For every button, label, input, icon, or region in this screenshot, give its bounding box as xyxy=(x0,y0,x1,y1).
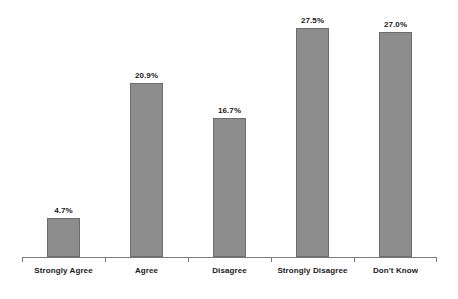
x-axis-tick xyxy=(271,257,272,262)
bar-value-label: 27.0% xyxy=(384,20,407,29)
x-axis-label-strongly-disagree: Strongly Disagree xyxy=(277,266,347,275)
bar-chart: 4.7% 20.9% 16.7% 27.5% 27.0% Strongly Ag… xyxy=(0,0,458,299)
bar-strongly-disagree[interactable] xyxy=(296,28,329,257)
x-axis-line xyxy=(22,257,437,258)
bar-disagree[interactable] xyxy=(213,118,246,257)
bar-agree[interactable] xyxy=(130,83,163,257)
x-axis-tick xyxy=(436,257,437,262)
bar-value-label: 16.7% xyxy=(218,106,241,115)
plot-area: 4.7% 20.9% 16.7% 27.5% 27.0% Strongly Ag… xyxy=(0,0,458,299)
bar-value-label: 4.7% xyxy=(54,206,73,215)
x-axis-label-agree: Agree xyxy=(135,266,158,275)
x-axis-tick xyxy=(105,257,106,262)
x-axis-label-strongly-agree: Strongly Agree xyxy=(34,266,92,275)
bar-strongly-agree[interactable] xyxy=(47,218,80,257)
x-axis-tick xyxy=(188,257,189,262)
bar-dont-know[interactable] xyxy=(379,32,412,257)
x-axis-label-dont-know: Don't Know xyxy=(373,266,418,275)
bar-value-label: 27.5% xyxy=(301,16,324,25)
x-axis-tick xyxy=(22,257,23,262)
x-axis-label-disagree: Disagree xyxy=(212,266,247,275)
x-axis-tick xyxy=(354,257,355,262)
bar-value-label: 20.9% xyxy=(135,71,158,80)
